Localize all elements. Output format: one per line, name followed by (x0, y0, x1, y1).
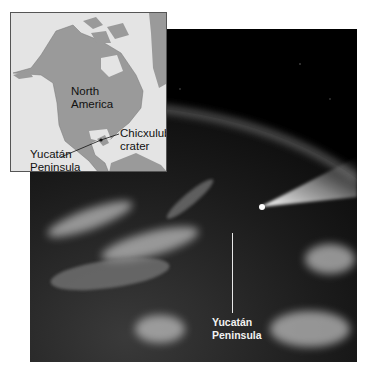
chicxulub-crater-label: Chicxulub crater (120, 127, 167, 153)
yucatan-label-line2: Peninsula (30, 161, 81, 172)
north-america-label-line1: North (71, 85, 113, 98)
north-america-label: North America (71, 85, 113, 111)
photo-peninsula-label-line1: Yucatán (212, 316, 262, 329)
photo-peninsula-label: Yucatán Peninsula (212, 316, 262, 342)
north-america-label-line2: America (71, 98, 113, 111)
chicxulub-label-line2: crater (120, 140, 167, 153)
photo-peninsula-label-line2: Peninsula (212, 329, 262, 342)
yucatan-label-line1: Yucatán (30, 148, 81, 161)
inset-map: North America Chicxulub crater Yucatán P… (10, 12, 167, 172)
yucatan-peninsula-map-label: Yucatán Peninsula (30, 148, 81, 172)
chicxulub-label-line1: Chicxulub (120, 127, 167, 140)
peninsula-leader-line (232, 233, 233, 313)
